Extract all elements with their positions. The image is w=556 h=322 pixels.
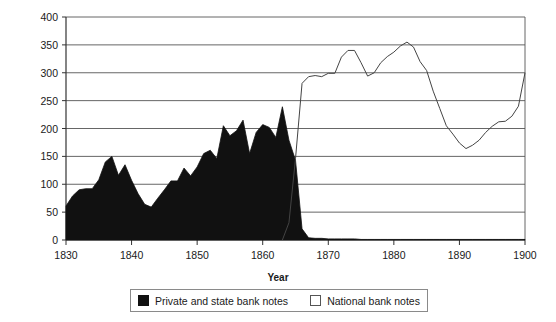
y-tick-label: 350 [24, 40, 58, 50]
series-national-bank-notes [282, 42, 525, 240]
y-tick-label: 150 [24, 151, 58, 161]
legend-swatch-filled-icon [138, 295, 149, 306]
y-tick-label: 300 [24, 68, 58, 78]
x-tick-label: 1880 [371, 250, 417, 261]
x-axis-title: Year [0, 272, 556, 283]
series-private-state-bank-notes [66, 107, 525, 240]
y-tick-label: 400 [24, 12, 58, 22]
legend-item-label: National bank notes [327, 295, 420, 307]
legend-swatch-hollow-icon [310, 295, 321, 306]
y-tick-label: 200 [24, 124, 58, 134]
legend-item[interactable]: National bank notes [310, 295, 420, 307]
y-tick-label: 50 [24, 207, 58, 217]
legend-item[interactable]: Private and state bank notes [138, 295, 288, 307]
x-tick-label: 1860 [240, 250, 286, 261]
legend: Private and state bank notesNational ban… [130, 289, 428, 312]
y-tick-label: 0 [24, 235, 58, 245]
y-tick-label: 100 [24, 179, 58, 189]
x-tick-label: 1870 [305, 250, 351, 261]
legend-item-label: Private and state bank notes [155, 295, 288, 307]
chart-container: Millions of dollars Year 050100150200250… [0, 0, 556, 322]
x-tick-label: 1830 [43, 250, 89, 261]
y-tick-label: 250 [24, 96, 58, 106]
data-series-layer [66, 42, 525, 240]
x-tick-label: 1840 [109, 250, 155, 261]
x-tick-label: 1900 [502, 250, 548, 261]
x-tick-label: 1890 [436, 250, 482, 261]
x-tick-label: 1850 [174, 250, 220, 261]
